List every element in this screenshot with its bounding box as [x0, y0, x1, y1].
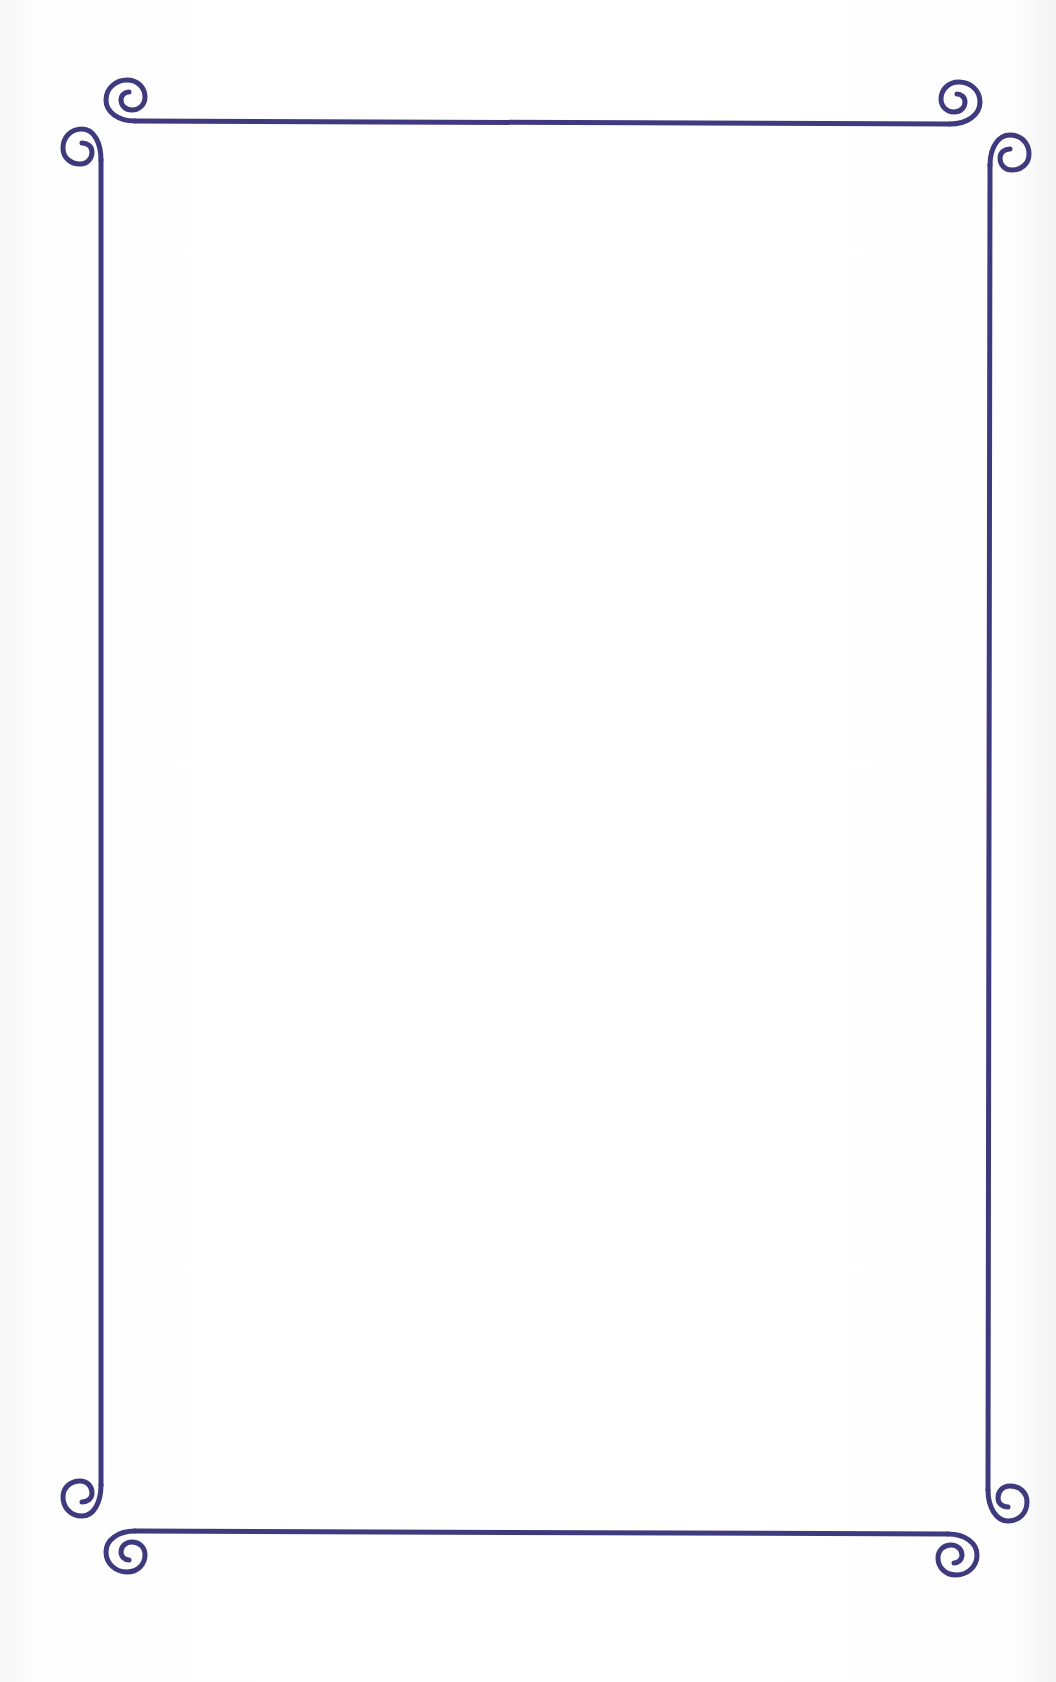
bottom-border-line	[135, 1531, 948, 1534]
spiral-scroll-icon	[106, 1531, 145, 1572]
spiral-scroll-icon	[990, 135, 1029, 170]
spiral-scroll-icon	[63, 1481, 101, 1516]
spiral-scroll-icon	[106, 80, 145, 121]
top-border-line	[135, 121, 950, 124]
spiral-scroll-icon	[63, 129, 101, 164]
spiral-scroll-icon	[988, 1486, 1027, 1521]
spiral-scroll-icon	[938, 1534, 977, 1575]
page	[0, 0, 1056, 1682]
right-border-line	[988, 165, 990, 1490]
blank-content-area	[120, 150, 970, 1510]
spiral-scroll-icon	[941, 82, 980, 124]
